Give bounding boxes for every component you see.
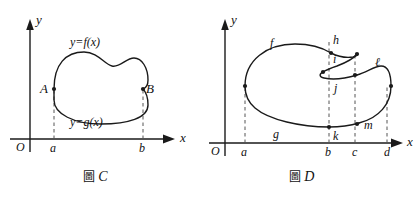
arc-label-f: f [270, 37, 273, 49]
curve-label-f: y=f(x) [70, 36, 100, 48]
dot-hook-left [321, 70, 325, 74]
y-axis-c [26, 19, 34, 152]
arc-j [320, 72, 357, 79]
y-axis-label-d: y [231, 13, 237, 26]
arc-label-k: k [333, 130, 338, 142]
y-axis-d [221, 19, 229, 156]
origin-label-d: O [211, 145, 220, 157]
curve-label-g: y=g(x) [70, 116, 103, 128]
figure-d-panel: y x O a b c d f h i ℓ j g k m 圖 D [207, 0, 413, 197]
tick-label-a-d: a [241, 146, 247, 158]
curve-f-and-g [54, 52, 148, 124]
dot-d-right [389, 84, 393, 88]
figure-c-caption-tag: C [98, 169, 107, 184]
x-axis-c [10, 135, 175, 144]
arc-k [329, 123, 359, 127]
dot-b-bottom [327, 125, 331, 129]
point-b-dot [141, 87, 145, 91]
tick-label-b-d: b [325, 146, 331, 158]
figure-d-graphic [207, 0, 413, 197]
figure-d-caption: 圖 D [289, 170, 314, 184]
x-axis-d [209, 139, 403, 148]
dot-c-hooktip [355, 52, 359, 56]
point-label-a: A [40, 82, 48, 95]
tick-label-c-d: c [352, 146, 357, 158]
arc-label-i: i [333, 53, 336, 65]
dot-c-bottom [355, 122, 359, 126]
figure-c-caption-cjk: 圖 [83, 170, 95, 184]
tick-label-a-c: a [50, 142, 56, 154]
dot-c-mid [353, 73, 357, 77]
figure-d-caption-tag: D [304, 169, 314, 184]
x-axis-label-c: x [180, 131, 186, 144]
point-a-dot [52, 87, 56, 91]
figure-c-panel: y x O a b A B y=f(x) y=g(x) 圖 C [0, 0, 207, 197]
arc-label-j: j [334, 82, 337, 94]
arc-f [245, 44, 331, 86]
tick-label-d-d: d [384, 146, 390, 158]
arc-ell [357, 66, 391, 86]
arc-label-m: m [364, 119, 373, 131]
arc-label-ell: ℓ [375, 56, 380, 68]
figure-board: y x O a b A B y=f(x) y=g(x) 圖 C [0, 0, 413, 197]
point-label-b: B [146, 82, 154, 95]
origin-label-c: O [16, 141, 25, 153]
figure-c-graphic [0, 0, 207, 197]
dot-a-d [243, 84, 247, 88]
figure-c-caption: 圖 C [83, 170, 108, 184]
arc-label-h: h [333, 34, 339, 46]
figure-d-caption-cjk: 圖 [289, 170, 301, 184]
arc-g [245, 86, 329, 127]
x-axis-label-d: x [407, 135, 413, 148]
y-axis-label-c: y [36, 13, 42, 26]
arc-label-g: g [273, 128, 279, 140]
tick-label-b-c: b [139, 142, 145, 154]
